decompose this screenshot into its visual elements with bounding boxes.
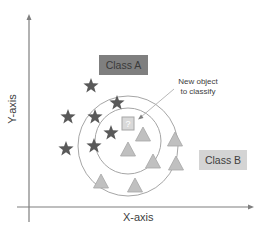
star-icon <box>109 95 124 109</box>
star-icon <box>86 138 101 152</box>
x-axis-label: X-axis <box>123 211 154 223</box>
class-b-label: Class B <box>205 154 241 166</box>
triangle-icon <box>121 142 136 156</box>
star-icon <box>87 109 102 123</box>
annotation-line-1: New object <box>168 77 228 87</box>
knn-diagram: ? <box>0 0 266 237</box>
triangle-icon <box>169 156 184 170</box>
star-icon <box>58 141 73 155</box>
new-object-question-mark: ? <box>125 119 130 129</box>
class-b-points <box>94 127 184 192</box>
new-object-annotation: New object to classify <box>168 77 228 97</box>
triangle-icon <box>136 127 151 141</box>
class-b-legend: Class B <box>199 150 247 170</box>
triangle-icon <box>168 132 183 146</box>
class-a-legend: Class A <box>99 55 148 75</box>
triangle-icon <box>94 174 109 188</box>
triangle-icon <box>128 178 143 192</box>
triangle-icon <box>146 154 161 168</box>
star-icon <box>60 109 75 123</box>
class-a-label: Class A <box>106 59 142 71</box>
star-icon <box>103 125 118 139</box>
y-axis-label: Y-axis <box>6 94 18 124</box>
annotation-line-2: to classify <box>168 87 228 97</box>
class-a-points <box>58 78 124 155</box>
x-axis-arrowhead-icon <box>248 205 254 210</box>
y-axis-arrowhead-icon <box>27 14 32 20</box>
star-icon <box>83 78 98 92</box>
